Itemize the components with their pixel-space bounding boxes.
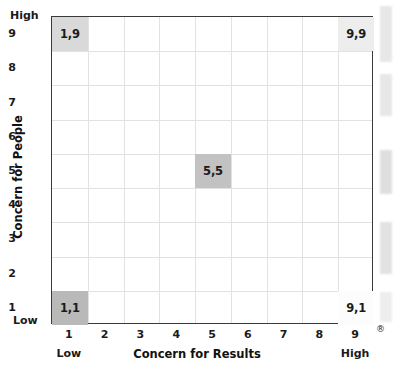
grid-cell-1-1: 1,1 xyxy=(52,291,88,325)
gridline-vertical xyxy=(302,17,303,323)
gridline-horizontal xyxy=(52,51,372,52)
gridline-horizontal xyxy=(52,291,372,292)
y-axis-title: Concern for People xyxy=(11,87,25,267)
x-tick-1: 1 xyxy=(56,328,82,341)
y-tick-9: 9 xyxy=(0,27,16,40)
gridline-horizontal xyxy=(52,257,372,258)
managerial-grid-chart: 1,99,95,51,19,1 987654321 123456789 High… xyxy=(0,0,394,371)
y-axis-low-label: Low xyxy=(13,314,38,327)
gridline-horizontal xyxy=(52,120,372,121)
x-tick-9: 9 xyxy=(342,328,368,341)
gridline-horizontal xyxy=(52,222,372,223)
gridline-horizontal xyxy=(52,188,372,189)
x-tick-3: 3 xyxy=(127,328,153,341)
x-tick-7: 7 xyxy=(271,328,297,341)
plot-area: 1,99,95,51,19,1 xyxy=(51,16,373,324)
x-tick-8: 8 xyxy=(306,328,332,341)
y-axis-high-label: High xyxy=(10,9,39,22)
gridline-vertical xyxy=(159,17,160,323)
x-tick-4: 4 xyxy=(163,328,189,341)
grid-cell-9-1: 9,1 xyxy=(338,291,374,325)
x-axis-title: Concern for Results xyxy=(0,347,394,361)
x-tick-6: 6 xyxy=(235,328,261,341)
grid-cell-label: 5,5 xyxy=(203,164,223,178)
gridline-vertical xyxy=(88,17,89,323)
gridline-vertical xyxy=(338,17,339,323)
gridline-vertical xyxy=(124,17,125,323)
x-tick-5: 5 xyxy=(199,328,225,341)
grid-cell-1-9: 1,9 xyxy=(52,17,88,51)
y-tick-1: 1 xyxy=(0,300,16,313)
grid-cell-5-5: 5,5 xyxy=(195,154,231,188)
registered-trademark-icon: ® xyxy=(376,324,385,334)
gridline-vertical xyxy=(267,17,268,323)
grid-cell-label: 9,1 xyxy=(346,301,366,315)
grid-cell-9-9: 9,9 xyxy=(338,17,374,51)
gridline-vertical xyxy=(231,17,232,323)
grid-cell-label: 1,9 xyxy=(60,27,80,41)
x-tick-2: 2 xyxy=(92,328,118,341)
grid-cell-label: 9,9 xyxy=(346,27,366,41)
y-tick-2: 2 xyxy=(0,266,16,279)
y-tick-8: 8 xyxy=(0,61,16,74)
grid-cell-label: 1,1 xyxy=(60,301,80,315)
gridline-horizontal xyxy=(52,85,372,86)
